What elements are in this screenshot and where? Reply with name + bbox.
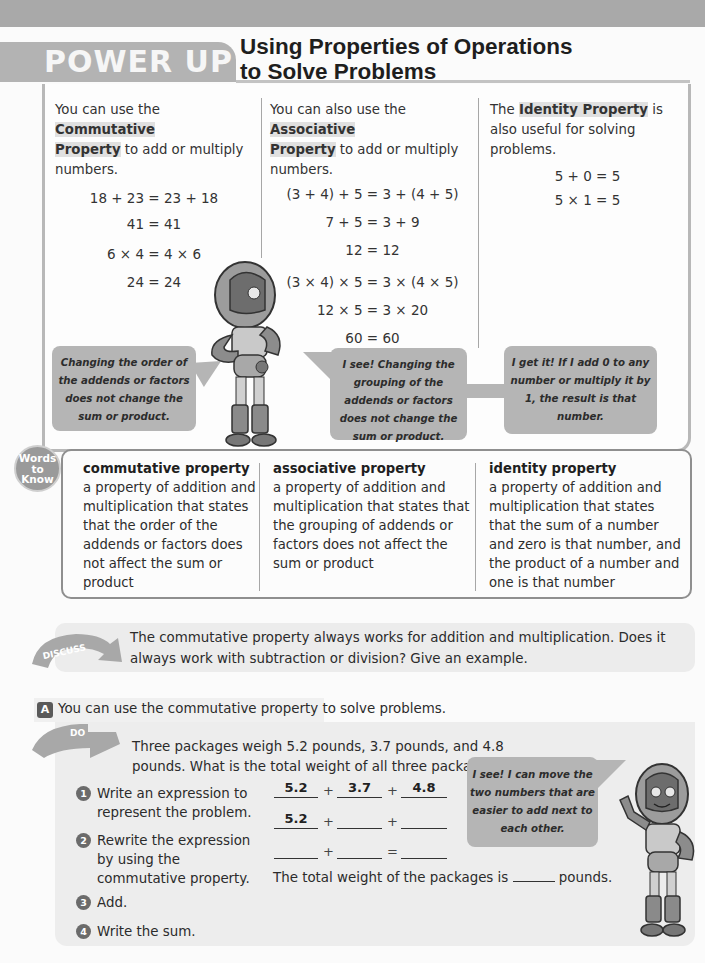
equation: 7 + 5 = 3 + 9 [270, 212, 475, 232]
total-answer-blank[interactable] [513, 869, 555, 882]
title-divider [236, 80, 690, 83]
identity-column: The Identity Property is also useful for… [490, 100, 685, 210]
vocab-identity: identity property a property of addition… [489, 459, 684, 592]
plus-sign: + [323, 783, 334, 798]
do-arrow-icon: DO [30, 722, 125, 762]
answer-blank[interactable] [401, 811, 447, 829]
associative-term-2: Property [270, 142, 336, 157]
step-text: Write the sum. [97, 922, 257, 941]
activity-a-intro: You can use the commutative property to … [58, 701, 446, 716]
answer-blank[interactable]: 5.2 [274, 780, 318, 798]
column-divider [475, 463, 476, 591]
plus-sign: + [323, 844, 334, 859]
vocab-term: associative property [273, 459, 473, 478]
plus-sign: + [387, 783, 398, 798]
bubble-connector [465, 384, 507, 398]
step-text: Add. [97, 893, 257, 912]
total-weight-sentence: The total weight of the packages is poun… [273, 869, 612, 885]
answer-blank[interactable] [401, 841, 447, 859]
speech-bubble-hint: I see! I can move the two numbers that a… [467, 757, 598, 847]
speech-bubble-commutative: Changing the order of the addends or fac… [52, 346, 196, 431]
commutative-lead: You can use the Commutative Property to … [55, 100, 253, 180]
page-title: Using Properties of Operations to Solve … [240, 34, 573, 84]
answer-blank[interactable]: 5.2 [274, 811, 318, 829]
properties-panel: You can use the Commutative Property to … [42, 84, 691, 452]
robot-mascot-icon [210, 255, 310, 450]
answer-blank[interactable]: 4.8 [401, 780, 447, 798]
associative-term: Associative [270, 122, 355, 137]
step-number: 1 [76, 786, 91, 801]
column-divider [259, 463, 260, 591]
words-to-know-badge: Words to Know [14, 445, 61, 492]
equation: (3 + 4) + 5 = 3 + (4 + 5) [270, 184, 475, 204]
commutative-term-2: Property [55, 142, 121, 157]
words-to-know-panel: commutative property a property of addit… [61, 449, 692, 599]
vocab-definition: a property of addition and multiplicatio… [489, 478, 684, 592]
answer-blank[interactable] [274, 841, 318, 859]
column-divider [261, 98, 262, 258]
answer-blank[interactable]: 3.7 [337, 780, 382, 798]
equation: 5 + 0 = 5 [490, 166, 685, 186]
vocab-term: identity property [489, 459, 684, 478]
equals-sign: = [387, 844, 398, 859]
step-text: Write an expression to represent the pro… [97, 784, 257, 822]
column-divider [478, 98, 479, 348]
vocab-definition: a property of addition and multiplicatio… [273, 478, 473, 573]
step-number: 3 [76, 895, 91, 910]
speech-bubble-associative: I see! Changing the grouping of the adde… [330, 348, 467, 440]
power-up-tag: POWER UP [0, 42, 236, 82]
equation: 41 = 41 [55, 214, 253, 234]
identity-term: Identity Property [519, 102, 648, 117]
step-text: Rewrite the expression by using the comm… [97, 831, 257, 888]
discuss-prompt: The commutative property always works fo… [130, 627, 690, 669]
vocab-associative: associative property a property of addit… [273, 459, 473, 573]
equation: 18 + 23 = 23 + 18 [55, 188, 253, 208]
answer-blank[interactable] [337, 841, 382, 859]
step-number: 4 [76, 924, 91, 939]
vocab-definition: a property of addition and multiplicatio… [83, 478, 263, 592]
power-up-label: POWER UP [44, 44, 233, 79]
answer-blank[interactable] [337, 811, 382, 829]
vocab-commutative: commutative property a property of addit… [83, 459, 263, 592]
associative-lead: You can also use the Associative Propert… [270, 100, 475, 180]
equation: 5 × 1 = 5 [490, 190, 685, 210]
activity-a-badge: A [37, 702, 53, 718]
vocab-term: commutative property [83, 459, 263, 478]
speech-bubble-identity: I get it! If I add 0 to any number or mu… [504, 346, 657, 434]
plus-sign: + [323, 814, 334, 829]
plus-sign: + [387, 814, 398, 829]
do-tag: DO [70, 728, 85, 738]
top-banner [0, 0, 705, 27]
page-title-line1: Using Properties of Operations [240, 34, 573, 59]
step-number: 2 [76, 833, 91, 848]
discuss-arrow-icon: DISCUSS [28, 630, 128, 670]
identity-lead: The Identity Property is also useful for… [490, 100, 685, 160]
robot-mascot-icon [610, 760, 700, 940]
commutative-term: Commutative [55, 122, 155, 137]
